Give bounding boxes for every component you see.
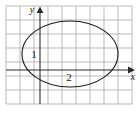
x-axis-label: x (130, 71, 136, 82)
curve-label-two: 2 (66, 71, 72, 83)
y-axis-label: y (29, 4, 35, 15)
up-arrow-icon (37, 7, 44, 14)
ellipse-grid-figure: 1 2 y x (0, 0, 139, 116)
curve-label-one: 1 (31, 48, 37, 60)
figure-canvas: 1 2 y x (0, 0, 139, 116)
